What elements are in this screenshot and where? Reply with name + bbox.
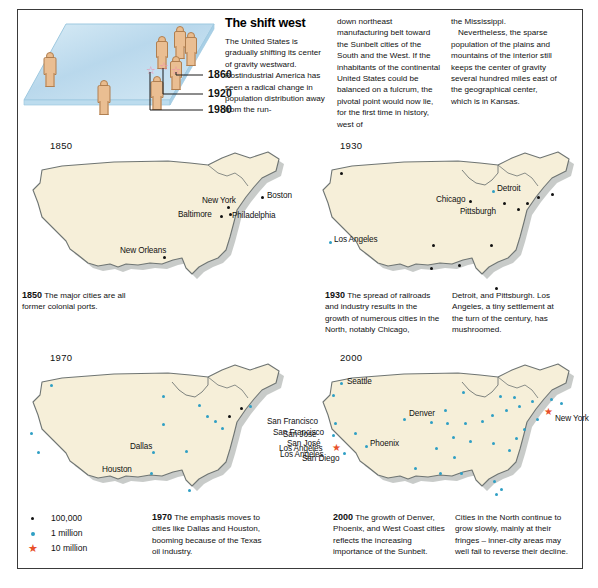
caption-1970-year: 1970 [152, 512, 172, 522]
city-label-new-orleans: New Orleans [120, 246, 166, 255]
intro-col2-text: down northeast manufacturing belt toward… [337, 16, 443, 130]
city-dot-baltimore [220, 215, 223, 218]
city-dot-generic [551, 193, 554, 196]
black-dot-icon [27, 512, 41, 525]
intro-column-2: down northeast manufacturing belt toward… [337, 16, 443, 130]
city-label-detroit: Detroit [497, 184, 520, 193]
city-label-chicago: Chicago [436, 195, 465, 204]
intro-col1-text: The United States is gradually shifting … [225, 36, 329, 116]
city-star-new-york: ★ [544, 407, 553, 417]
caption-1850-year: 1850 [22, 290, 42, 300]
city-label-new-york: New York [202, 196, 236, 205]
city-label-pittsburgh: Pittsburgh [460, 207, 496, 216]
caption-1970: 1970 The emphasis moves to cities like D… [152, 512, 262, 557]
usa-outline-1970 [22, 352, 297, 502]
city-star-los-angeles: ★ [332, 443, 341, 453]
legend-label-10million: 10 million [51, 542, 87, 555]
city-dot-generic [432, 244, 435, 247]
city-dot-pittsburgh [503, 202, 506, 205]
map-1970: 1970 San Francisco San José Los Angeles … [22, 352, 297, 502]
blue-dot-icon [27, 527, 41, 540]
year-lead-lines [18, 12, 223, 127]
city-dot-generic [537, 196, 540, 199]
legend-label-100000: 100,000 [51, 512, 82, 525]
city-label-houston: Houston [102, 465, 132, 474]
city-dot-generic [430, 267, 433, 270]
city-label-phoenix: Phoenix [370, 439, 399, 448]
usa-outline-2000 [312, 352, 587, 502]
city-label-san-jose: San José [283, 430, 316, 439]
city-dot-new-york [227, 206, 230, 209]
caption-1930-col2: Detroit, and Pittsburgh. Los Angeles, a … [452, 290, 564, 335]
usa-outline-1930 [312, 140, 587, 290]
city-dot-generic [458, 264, 461, 267]
map-legend: 100,000 1 million ★ 10 million [27, 512, 147, 557]
city-label-seattle: Seattle [347, 377, 372, 386]
intro-column-3: the Mississippi. Nevertheless, the spars… [451, 16, 559, 107]
legend-item-1million: 1 million [27, 527, 147, 542]
page-title: The shift west [225, 16, 333, 30]
caption-2000-year: 2000 [333, 512, 353, 522]
city-label-dallas: Dallas [130, 442, 152, 451]
city-dot-chicago [469, 200, 472, 203]
caption-2000: 2000 The growth of Denver, Phoenix, and … [333, 512, 445, 557]
caption-1930-year: 1930 [325, 290, 345, 300]
city-label-baltimore: Baltimore [178, 210, 212, 219]
caption-1850: 1850 The major cities are all former col… [22, 290, 137, 313]
city-dot-generic [490, 244, 493, 247]
city-label-los-angeles-2000: Los Angeles [279, 444, 323, 453]
legend-label-1million: 1 million [51, 527, 83, 540]
city-dot-boston [261, 196, 264, 199]
city-dot-generic [517, 208, 520, 211]
city-label-los-angeles-1930: Los Angeles [334, 235, 378, 244]
infographic-page: ☆ ☆ ☆ 1860 1920 1980 The shift west The … [0, 0, 598, 588]
legend-item-100000: 100,000 [27, 512, 147, 527]
map-1930: 1930 Chicago Detroit Pittsburgh Los Ange… [312, 140, 587, 290]
city-dot-new-orleans [163, 256, 166, 259]
red-star-icon: ★ [27, 542, 41, 555]
intro-column-1: The United States is gradually shifting … [225, 36, 329, 116]
city-dot-boston-1970 [240, 407, 243, 410]
city-dot-seattle-1930 [340, 172, 343, 175]
city-dot-new-york-1970 [228, 415, 231, 418]
city-label-san-francisco: San Francisco [267, 417, 318, 426]
intro-col3-text-a: the Mississippi. [451, 16, 559, 27]
center-of-gravity-diagram: ☆ ☆ ☆ [18, 12, 223, 127]
caption-2000-col2: Cities in the North continue to grow slo… [455, 512, 570, 557]
map-2000: 2000 Seattle Denver ★ New York San Franc… [312, 352, 587, 502]
city-label-philadelphia: Philadelphia [232, 211, 275, 220]
intro-col3-text-b: Nevertheless, the sparse population of t… [451, 27, 559, 107]
city-dot-generic [526, 202, 529, 205]
city-label-denver: Denver [409, 409, 435, 418]
map-1850: 1850 New York Boston Baltimore Philadelp… [22, 140, 297, 290]
caption-1930: 1930 The spread of railroads and industr… [325, 290, 440, 335]
city-label-new-york-2000: New York [555, 414, 589, 423]
legend-item-10million: ★ 10 million [27, 542, 147, 557]
city-label-san-diego: San Diego [302, 454, 339, 463]
city-label-boston: Boston [267, 191, 292, 200]
